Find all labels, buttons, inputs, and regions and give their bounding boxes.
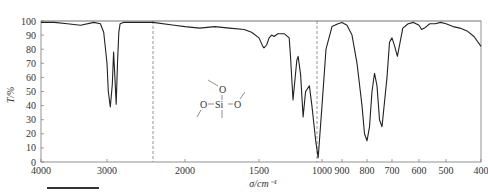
x-tick-label: 900 — [335, 165, 350, 176]
x-tick-label: 400 — [474, 165, 488, 176]
molecule-top-o: O — [219, 84, 226, 95]
x-axis-title: σ/cm⁻¹ — [249, 178, 276, 189]
x-axis: 40003000200015001000900800700600500400 — [31, 159, 488, 176]
y-tick-label: 30 — [26, 114, 36, 125]
y-axis-title: T/% — [5, 87, 16, 104]
molecule-structure: O O Si O — [197, 80, 245, 118]
caption-bar — [47, 187, 99, 189]
y-axis: 0102030405060708090100 — [21, 16, 44, 168]
x-tick-label: 500 — [439, 165, 454, 176]
y-tick-label: 50 — [26, 86, 36, 97]
y-tick-label: 40 — [26, 100, 36, 111]
y-tick-label: 10 — [26, 142, 36, 153]
x-tick-label: 1000 — [312, 165, 332, 176]
x-tick-label: 4000 — [31, 165, 51, 176]
y-tick-label: 70 — [26, 58, 36, 69]
x-tick-label: 2000 — [175, 165, 195, 176]
y-tick-label: 60 — [26, 72, 36, 83]
y-tick-label: 90 — [26, 30, 36, 41]
y-tick-label: 20 — [26, 128, 36, 139]
x-tick-label: 1500 — [249, 165, 269, 176]
molecule-left-o: O — [200, 99, 207, 110]
molecule-si: Si — [215, 99, 224, 110]
y-tick-label: 100 — [21, 16, 36, 27]
x-tick-label: 700 — [385, 165, 400, 176]
x-tick-label: 3000 — [97, 165, 117, 176]
x-tick-label: 600 — [412, 165, 427, 176]
molecule-right-o: O — [234, 99, 241, 110]
x-tick-label: 800 — [360, 165, 375, 176]
y-tick-label: 80 — [26, 44, 36, 55]
spectrum-line — [41, 22, 481, 157]
ir-spectrum-chart: 0102030405060708090100 40003000200015001… — [0, 0, 488, 195]
